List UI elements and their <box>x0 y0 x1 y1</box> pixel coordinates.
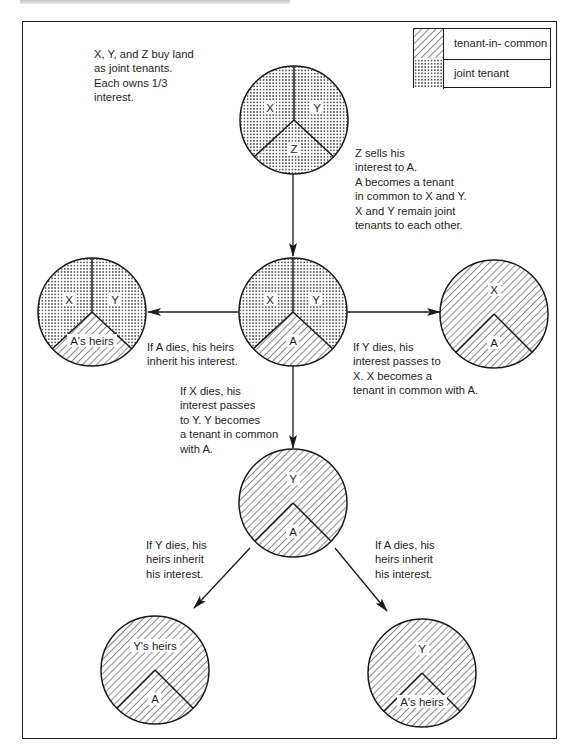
slice-label-x: X <box>490 284 498 296</box>
circle-after-sale: X Y A <box>239 258 347 366</box>
slice-label-y: Y <box>418 643 426 655</box>
slice-label-x: X <box>266 294 274 306</box>
legend-item-tenant-in-common: tenant-in- common <box>414 29 550 60</box>
slice-label-z: Z <box>290 143 297 155</box>
circle-x-dies: Y A <box>239 449 347 557</box>
tenancy-flow-diagram: X Y Z X Y A X Y <box>0 0 574 750</box>
legend-label: joint tenant <box>454 67 509 79</box>
slice-label-y-heirs: Y's heirs <box>133 640 177 652</box>
legend-item-joint-tenant: joint tenant <box>414 59 550 89</box>
slice-label-y: Y <box>111 294 119 306</box>
slice-label-y: Y <box>313 102 321 114</box>
caption-y-dies-first: If Y dies, his interest passes to X. X b… <box>353 340 478 398</box>
legend: tenant-in- common joint tenant <box>413 28 551 88</box>
caption-z-sells: Z sells his interest to A. A becomes a t… <box>355 146 467 232</box>
caption-a-dies-second: If A dies, his heirs inherit his interes… <box>375 538 435 581</box>
slice-label-a-heirs: A's heirs <box>400 696 444 708</box>
slice-label-a: A <box>151 693 159 705</box>
circle-a-dies: X Y A's heirs <box>38 258 146 366</box>
slice-label-a: A <box>289 526 297 538</box>
caption-a-dies: If A dies, his heirs inherit his interes… <box>147 340 238 369</box>
caption-y-dies-second: If Y dies, his heirs inherit his interes… <box>146 538 207 581</box>
caption-x-dies: If X dies, his interest passes to Y. Y b… <box>180 384 278 456</box>
dots-swatch-icon <box>414 59 444 89</box>
legend-label: tenant-in- common <box>454 37 547 49</box>
slice-label-y: Y <box>312 294 320 306</box>
slice-label-y: Y <box>289 473 297 485</box>
slice-label-x: X <box>65 294 73 306</box>
slice-label-x: X <box>266 102 274 114</box>
slice-label-a: A <box>289 335 297 347</box>
hatch-swatch-icon <box>414 29 444 59</box>
circle-a-dies-second: Y A's heirs <box>368 619 476 727</box>
circle-y-dies-second: Y's heirs A <box>101 616 209 724</box>
slice-label-a: A <box>490 337 498 349</box>
caption-initial-purchase: X, Y, and Z buy land as joint tenants. E… <box>94 47 194 105</box>
slice-label-a-heirs: A's heirs <box>70 335 114 347</box>
circle-start: X Y Z <box>240 66 348 174</box>
